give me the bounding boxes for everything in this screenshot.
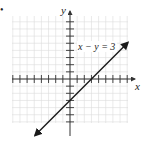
coordinate-plane: • y x x − y = 3 xyxy=(0,0,146,143)
y-axis-label: y xyxy=(60,4,66,16)
equation-line xyxy=(35,43,128,136)
graph-figure: • y x x − y = 3 xyxy=(0,0,146,143)
x-axis-label: x xyxy=(134,80,140,92)
item-bullet: • xyxy=(0,4,4,15)
equation-label: x − y = 3 xyxy=(77,41,115,52)
